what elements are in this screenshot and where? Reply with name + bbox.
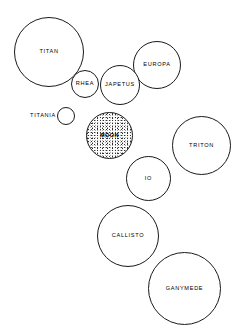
moon-label-rhea: RHEA: [76, 81, 94, 87]
moon-circle-io[interactable]: IO: [126, 156, 171, 201]
moon-label-callisto: CALLISTO: [112, 233, 145, 239]
moon-circle-triton[interactable]: TRITON: [172, 116, 231, 175]
moon-circle-callisto[interactable]: CALLISTO: [97, 205, 159, 267]
moon-label-titan: TITAN: [39, 49, 58, 55]
moon-label-ganymede: GANYMEDE: [166, 286, 204, 292]
moon-circle-europa[interactable]: EUROPA: [133, 41, 181, 89]
moon-label-moon: MOON: [100, 133, 119, 139]
moon-label-europa: EUROPA: [143, 62, 170, 68]
moon-circle-rhea[interactable]: RHEA: [71, 70, 99, 98]
moon-circle-titania[interactable]: [57, 107, 75, 125]
moon-circle-ganymede[interactable]: GANYMEDE: [148, 252, 221, 325]
moon-label-titania: TITANIA: [22, 113, 56, 119]
moon-circle-moon[interactable]: MOON: [86, 112, 133, 159]
moon-circle-japetus[interactable]: JAPETUS: [100, 65, 140, 105]
moon-label-triton: TRITON: [189, 143, 214, 149]
moon-label-io: IO: [145, 176, 152, 182]
moon-size-comparison-diagram: TITAN EUROPA RHEA JAPETUS TITANIA MOON T…: [0, 0, 247, 331]
moon-label-japetus: JAPETUS: [105, 82, 135, 88]
